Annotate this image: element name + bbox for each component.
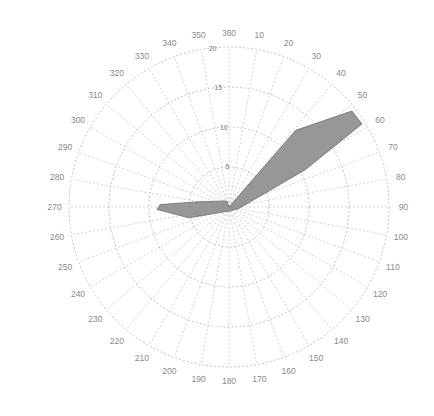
angle-label: 50 [358, 90, 368, 100]
angle-label: 30 [311, 51, 321, 61]
grid-spoke [229, 207, 284, 357]
angle-label: 40 [336, 68, 346, 78]
angle-label: 70 [388, 142, 398, 152]
angle-label: 220 [110, 336, 124, 346]
angle-label: 160 [282, 366, 296, 376]
angle-label: 250 [58, 262, 72, 272]
grid-spoke [229, 207, 309, 346]
grid-spoke [229, 207, 257, 365]
angle-label: 300 [71, 115, 85, 125]
radius-label: 5 [225, 163, 229, 170]
angle-label: 150 [309, 353, 323, 363]
angle-label: 210 [135, 353, 149, 363]
grid-spoke [126, 207, 229, 330]
angle-label: 100 [394, 232, 408, 242]
angle-label: 180 [222, 376, 236, 386]
angle-label: 270 [48, 202, 62, 212]
grid-spoke [106, 207, 229, 310]
angle-label: 130 [356, 314, 370, 324]
grid-spoke [229, 207, 379, 262]
grid-spoke [106, 104, 229, 207]
angle-label: 120 [373, 289, 387, 299]
grid-spoke [149, 207, 229, 346]
polar-chart: 3601020304050607080901001101201301401501… [0, 0, 434, 416]
angle-label: 260 [50, 232, 64, 242]
grid-spoke [126, 84, 229, 207]
radius-label: 10 [220, 124, 228, 131]
angle-label: 10 [255, 30, 265, 40]
angle-label: 280 [50, 172, 64, 182]
angle-label: 140 [334, 336, 348, 346]
grid-spoke [229, 207, 332, 330]
grid-spoke [90, 207, 229, 287]
grid-spoke [229, 207, 368, 287]
angle-label: 60 [375, 115, 385, 125]
radius-label: 15 [214, 84, 222, 91]
angle-label: 110 [386, 262, 400, 272]
angle-label: 90 [399, 202, 409, 212]
angle-label: 80 [396, 172, 406, 182]
data-patch [157, 111, 362, 218]
grid-spoke [79, 152, 229, 207]
grid-spoke [90, 127, 229, 207]
angle-label: 360 [222, 28, 236, 38]
angle-label: 330 [135, 51, 149, 61]
grid-spoke [229, 207, 387, 235]
angle-label: 170 [252, 374, 266, 384]
grid-spoke [229, 207, 352, 310]
grid-spoke [174, 57, 229, 207]
radius-label: 20 [209, 45, 217, 52]
data-polygon [157, 111, 362, 218]
angle-label: 240 [71, 289, 85, 299]
grid-spoke [201, 207, 229, 365]
angle-label: 340 [162, 38, 176, 48]
angle-label: 20 [284, 38, 294, 48]
angle-label: 320 [110, 68, 124, 78]
angle-label: 190 [192, 374, 206, 384]
angle-label: 200 [162, 366, 176, 376]
grid-spoke [174, 207, 229, 357]
angle-label: 290 [58, 142, 72, 152]
angle-label: 230 [88, 314, 102, 324]
angle-label: 350 [192, 30, 206, 40]
angle-label: 310 [88, 90, 102, 100]
